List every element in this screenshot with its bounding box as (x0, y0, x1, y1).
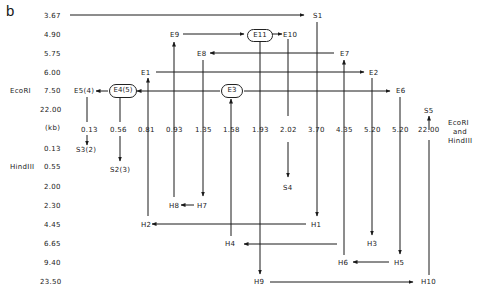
restriction-map-diagram: b EcoRI HindIII 3.67 4.90 5.75 6.00 7.50… (0, 0, 483, 296)
connector-lines (0, 0, 483, 296)
